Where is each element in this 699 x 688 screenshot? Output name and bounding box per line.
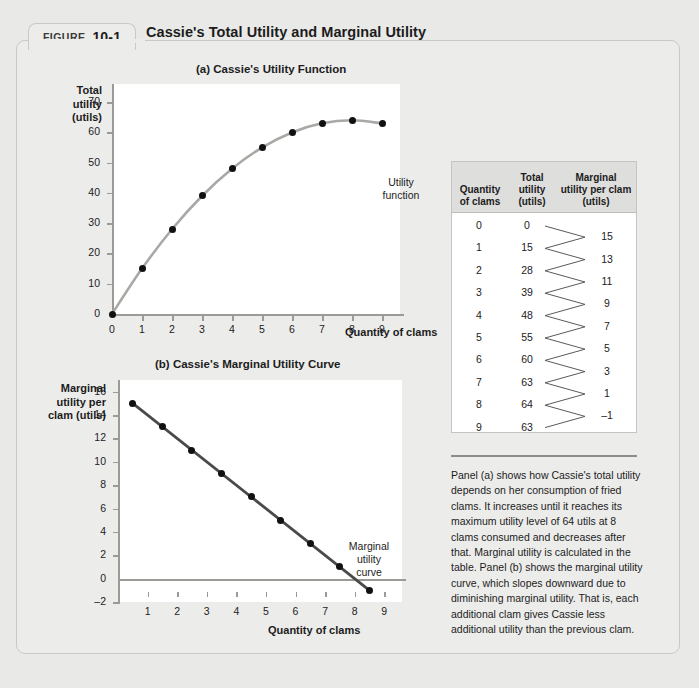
panel-a-y-tick-label: 0 <box>70 307 100 319</box>
table-cell-quantity: 6 <box>459 353 499 365</box>
table-cell-total-utility: 63 <box>507 421 547 433</box>
table-cell-marginal-utility: 3 <box>587 365 627 377</box>
table-header-marginal-line-2: utility per clam <box>556 184 636 196</box>
table-cell-quantity: 8 <box>459 398 499 410</box>
panel-b-x-tick <box>384 592 386 597</box>
panel-a-data-point <box>349 117 356 124</box>
panel-b-y-axis-title: Marginal utility per clam (utils) <box>22 382 106 423</box>
panel-b-y-tick <box>113 485 118 487</box>
panel-a-plot-area <box>112 84 400 314</box>
panel-b-x-tick-label: 9 <box>377 605 391 617</box>
panel-b-y-tick <box>113 415 118 417</box>
panel-a-x-axis <box>112 314 404 316</box>
panel-a-y-tick-label: 10 <box>70 277 100 289</box>
panel-b-title: (b) Cassie's Marginal Utility Curve <box>155 358 341 370</box>
panel-a-data-point <box>289 129 296 136</box>
table-cell-total-utility: 48 <box>507 309 547 321</box>
utility-function-label-line-2: function <box>372 189 430 202</box>
panel-b-y-tick <box>113 438 118 440</box>
data-table-header: Quantity of clams Total utility (utils) … <box>451 161 637 213</box>
table-header-total-line-2: utility <box>508 184 556 196</box>
panel-b-y-tick-label: 4 <box>76 525 106 537</box>
panel-a-x-tick <box>142 316 144 321</box>
tab-seam-mask <box>29 39 145 43</box>
panel-a-x-tick-label: 1 <box>135 323 149 335</box>
panel-b-data-point <box>277 517 284 524</box>
table-header-marginal-line-3: (utils) <box>556 196 636 208</box>
panel-a-data-point <box>259 144 266 151</box>
utility-function-label: Utility function <box>372 176 430 202</box>
panel-b-x-tick <box>325 592 327 597</box>
panel-a-data-point <box>319 120 326 127</box>
panel-a-y-tick <box>107 223 112 225</box>
table-cell-quantity: 0 <box>459 219 499 231</box>
panel-a-y-tick <box>107 253 112 255</box>
table-cell-total-utility: 28 <box>507 264 547 276</box>
table-header-total-line-1: Total <box>508 172 556 184</box>
panel-b-y-tick <box>113 509 118 511</box>
panel-a-x-tick <box>382 316 384 321</box>
marginal-utility-curve-label-line-2: utility <box>340 553 398 566</box>
table-cell-quantity: 9 <box>459 421 499 433</box>
panel-b-x-tick <box>148 592 150 597</box>
panel-a-y-tick <box>107 102 112 104</box>
table-cell-marginal-utility: 1 <box>587 387 627 399</box>
table-header-quantity-line-1: Quantity <box>452 184 508 196</box>
panel-a-y-axis-line-2: utility <box>30 98 102 112</box>
table-cell-marginal-utility: 15 <box>587 230 627 242</box>
panel-b-x-tick <box>177 592 179 597</box>
panel-a-y-tick <box>107 163 112 165</box>
panel-b-x-tick-label: 5 <box>259 605 273 617</box>
panel-a-y-tick <box>107 284 112 286</box>
panel-a-x-axis-title: Quantity of clams <box>345 326 437 340</box>
table-cell-marginal-utility: 11 <box>587 275 627 287</box>
panel-a-y-axis-line-1: Total <box>30 84 102 98</box>
panel-a-y-tick <box>107 132 112 134</box>
panel-b-x-axis-title: Quantity of clams <box>268 624 360 638</box>
table-cell-quantity: 1 <box>459 241 499 253</box>
panel-b-x-tick <box>207 592 209 597</box>
table-header-marginal-line-1: Marginal <box>556 172 636 184</box>
table-cell-quantity: 5 <box>459 331 499 343</box>
panel-b-data-point <box>218 470 225 477</box>
panel-a-x-tick <box>202 316 204 321</box>
utility-function-label-line-1: Utility <box>372 176 430 189</box>
panel-b-x-tick-label: 1 <box>141 605 155 617</box>
panel-a-y-axis-title: Total utility (utils) <box>30 84 102 125</box>
panel-a-x-tick-label: 0 <box>105 323 119 335</box>
panel-a-x-tick-label: 6 <box>285 323 299 335</box>
panel-b-y-tick-label: 2 <box>76 548 106 560</box>
panel-b-y-axis-line-2: utility per <box>22 396 106 410</box>
table-cell-total-utility: 60 <box>507 353 547 365</box>
panel-b-y-tick <box>113 555 118 557</box>
panel-a-data-point <box>229 165 236 172</box>
panel-b-y-tick <box>113 462 118 464</box>
panel-b-data-point <box>307 540 314 547</box>
panel-a-x-tick-label: 5 <box>255 323 269 335</box>
table-cell-total-utility: 0 <box>507 219 547 231</box>
table-header-marginal-utility: Marginal utility per clam (utils) <box>556 172 636 212</box>
panel-a-x-tick <box>172 316 174 321</box>
marginal-utility-curve-label-line-1: Marginal <box>340 540 398 553</box>
panel-b-x-tick <box>236 592 238 597</box>
panel-b-y-tick-label: 6 <box>76 502 106 514</box>
table-header-quantity: Quantity of clams <box>452 184 508 212</box>
panel-a-x-tick-label: 3 <box>195 323 209 335</box>
panel-b-x-tick-label: 2 <box>170 605 184 617</box>
panel-a-y-tick-label: 60 <box>70 125 100 137</box>
panel-a-y-tick-label: 40 <box>70 186 100 198</box>
panel-a-y-tick-label: 30 <box>70 216 100 228</box>
panel-b-y-tick-label: 0 <box>76 572 106 584</box>
panel-a-data-point <box>139 265 146 272</box>
panel-a-y-axis <box>112 84 114 316</box>
table-cell-marginal-utility: 9 <box>587 297 627 309</box>
panel-a-x-tick-label: 2 <box>165 323 179 335</box>
panel-b-y-tick-label: 10 <box>76 455 106 467</box>
table-cell-quantity: 2 <box>459 264 499 276</box>
figure-caption: Panel (a) shows how Cassie's total utili… <box>451 468 643 637</box>
panel-b-x-tick <box>296 592 298 597</box>
panel-a-x-tick <box>262 316 264 321</box>
table-cell-total-utility: 64 <box>507 398 547 410</box>
caption-divider <box>451 455 637 457</box>
table-cell-marginal-utility: –1 <box>587 409 627 421</box>
